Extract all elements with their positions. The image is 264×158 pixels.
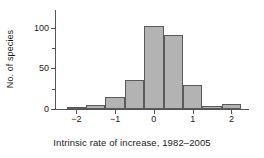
y-axis-tick-label: 0 <box>23 105 49 114</box>
histogram-bar <box>202 106 221 109</box>
y-axis-title: No. of species <box>0 0 20 118</box>
y-axis-tick <box>51 28 55 29</box>
y-axis-tick-labels: 050100 <box>19 0 49 158</box>
y-axis-tick-label: 50 <box>23 64 49 73</box>
plot-area: −2−1012 <box>55 10 245 109</box>
y-axis-title-text: No. of species <box>5 30 15 88</box>
y-axis-spine <box>55 10 56 109</box>
histogram-bar <box>105 97 124 109</box>
histogram-bar <box>86 105 105 109</box>
x-axis-tick-label: −1 <box>103 115 127 124</box>
y-axis-tick <box>51 68 55 69</box>
histogram-bar <box>164 35 183 109</box>
histogram-figure: No. of species 050100 −2−1012 Intrinsic … <box>0 0 264 158</box>
histogram-bar <box>183 85 202 109</box>
y-axis-minor-tick <box>52 89 55 90</box>
x-axis-tick-label: −2 <box>64 115 88 124</box>
y-axis-tick-label: 100 <box>23 24 49 33</box>
x-axis-tick-label: 1 <box>181 115 205 124</box>
histogram-bar <box>144 26 163 109</box>
histogram-bar <box>67 107 86 109</box>
histogram-bar <box>125 80 144 109</box>
x-axis-tick-label: 2 <box>219 115 243 124</box>
x-axis-title: Intrinsic rate of increase, 1982–2005 <box>0 137 264 148</box>
x-axis-spine <box>51 109 249 110</box>
histogram-bar <box>222 104 241 109</box>
x-axis-tick-label: 0 <box>142 115 166 124</box>
y-axis-minor-tick <box>52 48 55 49</box>
y-axis-tick <box>51 109 55 110</box>
